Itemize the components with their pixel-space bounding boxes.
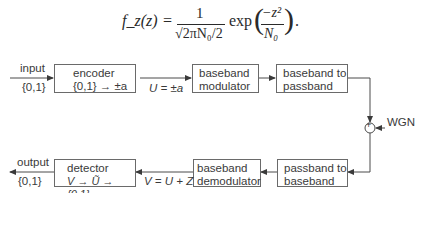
demodulator-line1: baseband — [197, 162, 260, 175]
passband-to-baseband-block: passband to baseband — [277, 159, 348, 187]
output-alphabet: {0,1} — [18, 175, 42, 187]
encoder-block: encoder {0,1} → ±a — [54, 64, 136, 93]
downconverter-line2: baseband — [284, 175, 347, 188]
output-label: output — [17, 156, 49, 168]
input-label: input — [20, 62, 45, 74]
upconverter-to-adder-arrow — [347, 78, 370, 122]
upconverter-line1: baseband to — [283, 67, 347, 80]
modulator-line2: modulator — [199, 80, 258, 93]
modulator-line1: baseband — [199, 67, 258, 80]
adder-to-downconverter-arrow — [348, 133, 370, 172]
demod-output-label: V = U + Z — [144, 175, 193, 187]
detector-mapping: V → Ũ → {0,1} — [67, 175, 135, 193]
wgn-label: WGN — [387, 116, 415, 128]
downconverter-line1: passband to — [284, 162, 347, 175]
baseband-modulator-block: baseband modulator — [192, 64, 259, 93]
demodulator-line2: demodulator — [197, 175, 260, 188]
encoder-output-label: U = ±a — [149, 82, 183, 94]
baseband-demodulator-block: baseband demodulator — [193, 159, 261, 187]
detector-title: detector — [67, 162, 135, 175]
input-alphabet: {0,1} — [22, 81, 46, 93]
encoder-mapping: {0,1} → ±a — [73, 80, 135, 93]
adder-plus-icon: + — [366, 120, 371, 130]
baseband-to-passband-block: baseband to passband — [276, 64, 348, 93]
encoder-title: encoder — [73, 67, 135, 80]
detector-block: detector V → Ũ → {0,1} — [54, 159, 136, 187]
upconverter-line2: passband — [283, 80, 347, 93]
